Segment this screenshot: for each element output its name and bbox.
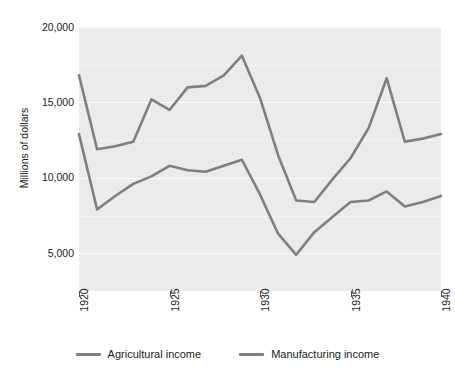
x-tick-label: 1925	[170, 282, 181, 318]
series-line-agricultural-income	[79, 134, 441, 255]
x-axis-ticks: 19201925193019351940	[0, 291, 455, 351]
series-line-manufacturing-income	[79, 56, 441, 202]
x-tick-label: 1920	[79, 282, 90, 318]
legend-swatch	[76, 353, 101, 356]
y-tick-label: 20,000	[28, 22, 74, 33]
legend-label: Agricultural income	[108, 348, 202, 360]
x-tick-label: 1935	[351, 282, 362, 318]
chart-legend: Agricultural incomeManufacturing income	[0, 348, 455, 360]
y-tick-label: 5,000	[28, 248, 74, 259]
x-tick-label: 1940	[441, 282, 452, 318]
legend-item-manufacturing-income[interactable]: Manufacturing income	[239, 348, 379, 360]
legend-swatch	[239, 353, 264, 356]
legend-label: Manufacturing income	[271, 348, 379, 360]
chart-figure: 5,00010,00015,00020,000 Millions of doll…	[0, 0, 455, 387]
series-container	[79, 27, 441, 291]
y-tick-label: 10,000	[28, 172, 74, 183]
y-tick-label: 15,000	[28, 97, 74, 108]
x-tick-label: 1930	[260, 282, 271, 318]
plot-area	[79, 27, 441, 291]
legend-item-agricultural-income[interactable]: Agricultural income	[76, 348, 202, 360]
y-axis-title: Millions of dollars	[18, 78, 30, 218]
